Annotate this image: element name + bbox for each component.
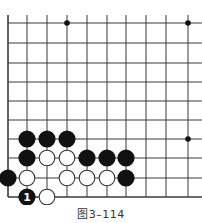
- white-stone: [59, 170, 75, 186]
- board-grid: [8, 15, 202, 197]
- black-stone: 1: [18, 188, 35, 205]
- move-number-label: 1: [23, 191, 31, 204]
- white-stone: [59, 150, 75, 166]
- white-stone: [99, 170, 115, 186]
- black-stone: [58, 130, 75, 147]
- black-stone: [78, 149, 95, 166]
- black-stone: [38, 130, 55, 147]
- star-point-icon: [185, 20, 191, 26]
- white-stone: [19, 170, 35, 186]
- black-stone: [117, 149, 134, 166]
- black-stone: [117, 169, 134, 186]
- star-point-icon: [64, 20, 70, 26]
- star-point-icon: [185, 136, 191, 142]
- white-stone: [39, 189, 55, 205]
- star-points: [64, 20, 191, 142]
- white-stone: [39, 150, 55, 166]
- go-board-diagram: 1: [0, 0, 202, 205]
- black-stone: [0, 169, 17, 186]
- figure-caption: 图3–114: [0, 205, 202, 221]
- black-stone: [18, 130, 35, 147]
- white-stone: [79, 170, 95, 186]
- black-stone: [18, 149, 35, 166]
- black-stone: [98, 149, 115, 166]
